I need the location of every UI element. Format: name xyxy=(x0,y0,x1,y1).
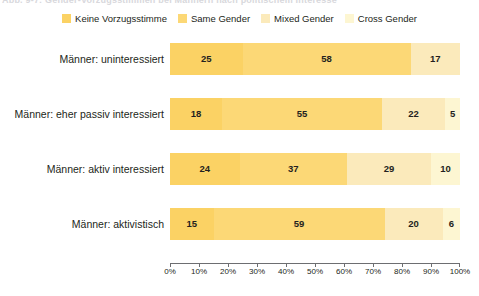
bar-segment-value: 15 xyxy=(186,219,197,229)
bar-segment[interactable]: 22 xyxy=(382,98,446,130)
stacked-bar-chart: Abb. 9-7: Gender-Vorzugsstimmen bei Männ… xyxy=(0,0,479,296)
chart-row: Männer: aktiv interessiert24372910 xyxy=(0,153,479,185)
x-axis-tick-label: 90% xyxy=(423,268,439,276)
bar-segment[interactable]: 15 xyxy=(170,208,214,240)
bar-segment-value: 6 xyxy=(449,219,454,229)
legend-swatch-icon xyxy=(261,14,270,23)
chart-row: Männer: aktivistisch1559206 xyxy=(0,208,479,240)
legend-swatch-icon xyxy=(62,14,71,23)
x-axis-tick-label: 50% xyxy=(307,268,323,276)
bar-segment[interactable]: 24 xyxy=(170,153,240,185)
x-axis: 0%10%20%30%40%50%60%70%80%90%100% xyxy=(170,263,460,287)
legend-item[interactable]: Keine Vorzugsstimme xyxy=(62,14,167,24)
x-axis-tick-label: 100% xyxy=(450,268,470,276)
bar-segment-value: 55 xyxy=(297,109,308,119)
category-label: Männer: aktivistisch xyxy=(0,218,170,230)
chart-row: Männer: eher passiv interessiert1855225 xyxy=(0,98,479,130)
x-axis-tick-label: 0% xyxy=(164,268,176,276)
bar-segment[interactable]: 6 xyxy=(443,208,460,240)
bar-segment-value: 5 xyxy=(450,109,455,119)
bar-segment[interactable]: 29 xyxy=(347,153,431,185)
plot-area: Männer: uninteressiert255817Männer: eher… xyxy=(0,33,479,263)
bar-segment[interactable]: 58 xyxy=(243,43,411,75)
bar-segment-value: 37 xyxy=(288,164,299,174)
x-axis-tick-label: 80% xyxy=(394,268,410,276)
bar-segment-value: 25 xyxy=(201,54,212,64)
bar-segment-value: 59 xyxy=(294,219,305,229)
bar-segment-value: 20 xyxy=(408,219,419,229)
figure-caption-text: Abb. 9-7: Gender-Vorzugsstimmen bei Männ… xyxy=(2,0,337,5)
x-axis-tick-label: 70% xyxy=(365,268,381,276)
bar-segment[interactable]: 5 xyxy=(445,98,460,130)
bar-segment-value: 17 xyxy=(430,54,441,64)
bar-segment[interactable]: 17 xyxy=(411,43,460,75)
legend-item[interactable]: Same Gender xyxy=(178,14,250,24)
x-axis-tick-label: 40% xyxy=(278,268,294,276)
legend-item[interactable]: Mixed Gender xyxy=(261,14,334,24)
bar-segment[interactable]: 59 xyxy=(214,208,385,240)
bar-segment[interactable]: 20 xyxy=(385,208,443,240)
x-axis-tick-label: 10% xyxy=(191,268,207,276)
bar-segment[interactable]: 25 xyxy=(170,43,243,75)
category-label: Männer: eher passiv interessiert xyxy=(0,108,170,120)
bar-segment[interactable]: 55 xyxy=(222,98,382,130)
legend-label: Same Gender xyxy=(191,14,250,24)
x-axis-tick-label: 60% xyxy=(336,268,352,276)
legend-label: Cross Gender xyxy=(358,14,417,24)
stacked-bar: 255817 xyxy=(170,43,460,75)
bar-segment-value: 58 xyxy=(321,54,332,64)
bar-segment-value: 29 xyxy=(384,164,395,174)
legend-item[interactable]: Cross Gender xyxy=(345,14,417,24)
bar-segment-value: 10 xyxy=(440,164,451,174)
category-label: Männer: uninteressiert xyxy=(0,53,170,65)
legend-label: Mixed Gender xyxy=(274,14,334,24)
bar-segment[interactable]: 10 xyxy=(431,153,460,185)
bar-segment-value: 18 xyxy=(191,109,202,119)
legend-label: Keine Vorzugsstimme xyxy=(75,14,167,24)
stacked-bar: 1855225 xyxy=(170,98,460,130)
stacked-bar: 1559206 xyxy=(170,208,460,240)
figure-caption: Abb. 9-7: Gender-Vorzugsstimmen bei Männ… xyxy=(0,0,479,9)
category-label: Männer: aktiv interessiert xyxy=(0,163,170,175)
bar-segment-value: 24 xyxy=(200,164,211,174)
stacked-bar: 24372910 xyxy=(170,153,460,185)
x-axis-tick-label: 20% xyxy=(220,268,236,276)
chart-row: Männer: uninteressiert255817 xyxy=(0,43,479,75)
legend-swatch-icon xyxy=(178,14,187,23)
bar-segment-value: 22 xyxy=(408,109,419,119)
legend-swatch-icon xyxy=(345,14,354,23)
chart-legend: Keine VorzugsstimmeSame GenderMixed Gend… xyxy=(0,14,479,24)
bar-segment[interactable]: 37 xyxy=(240,153,347,185)
x-axis-tick-label: 30% xyxy=(249,268,265,276)
bar-segment[interactable]: 18 xyxy=(170,98,222,130)
